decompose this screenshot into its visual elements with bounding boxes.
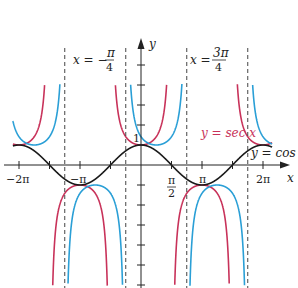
asymptote-left-den: 4 [106, 61, 113, 74]
cos-curve-label: y = cos x [250, 146, 298, 160]
y-axis-label: y [148, 37, 156, 51]
chart-canvas: x y −2π −π π 2π π 2 1 x = − π 4 x = 3π 4… [0, 0, 298, 288]
asymptote-left-label: x = − [73, 53, 108, 67]
asymptote-right-den: 4 [215, 61, 222, 74]
tick-label-one: 1 [133, 132, 140, 145]
tick-label-pi: π [199, 173, 206, 186]
asymptote-left-num: π [106, 46, 116, 60]
x-axis-arrow-icon [280, 162, 290, 169]
tick-label-neg2pi: −2π [6, 173, 29, 186]
x-axis-label: x [287, 171, 294, 185]
tick-label-negpi: −π [70, 173, 86, 186]
asymptotes-group [65, 48, 248, 288]
tick-label-2pi: 2π [256, 173, 270, 186]
sec-curve-label: y = sec x [200, 126, 256, 140]
y-axis-arrow-icon [138, 38, 145, 49]
asymptote-right-label: x = [190, 53, 211, 67]
tick-label-pihalf-den: 2 [168, 187, 175, 200]
asymptote-right-num: 3π [213, 46, 230, 60]
tick-label-pihalf-num: π [168, 174, 175, 187]
